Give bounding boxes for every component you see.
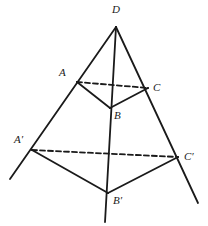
vertex-point-B: [109, 107, 111, 109]
figure-canvas: [0, 0, 208, 226]
vertex-label-D: D: [112, 4, 120, 15]
edge-layer: [10, 27, 198, 222]
vertex-point-Cprime: [177, 156, 179, 158]
vertex-point-D: [115, 26, 117, 28]
vertex-label-Cprime: C′: [184, 151, 194, 162]
edge-Aprime-Bprime: [32, 150, 108, 193]
vertex-label-Aprime: A′: [14, 134, 23, 145]
vertex-point-C: [147, 87, 149, 89]
edge-B-C: [110, 88, 148, 108]
vertex-point-Aprime: [31, 149, 33, 151]
edge-D-C-Cprime-extended: [116, 27, 198, 203]
vertex-point-Bprime: [107, 192, 109, 194]
vertex-label-C: C: [153, 82, 160, 93]
edge-Bprime-Cprime: [108, 157, 178, 193]
geometry-figure: DACBA′C′B′: [0, 0, 208, 226]
vertex-label-Bprime: B′: [113, 195, 122, 206]
vertex-label-B: B: [114, 110, 121, 121]
edge-Aprime-Cprime-hidden: [32, 150, 178, 157]
vertex-label-A: A: [59, 67, 66, 78]
vertex-point-A: [76, 81, 78, 83]
edge-A-B: [77, 82, 110, 108]
edge-D-A-Aprime-extended: [10, 27, 116, 179]
